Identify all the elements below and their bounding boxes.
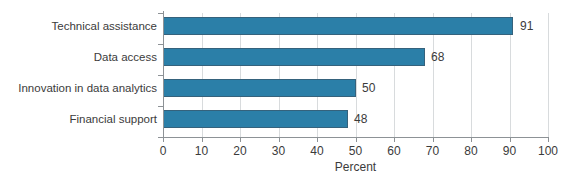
x-tick-label-10: 10	[182, 144, 222, 158]
x-axis-title: Percent	[163, 160, 548, 174]
x-tick-label-40: 40	[297, 144, 337, 158]
x-tick-label-90: 90	[490, 144, 530, 158]
category-label-data-access: Data access	[0, 50, 157, 64]
x-tick-label-0: 0	[143, 144, 183, 158]
value-label-technical-assistance: 91	[520, 19, 533, 33]
x-tick-50	[356, 137, 357, 142]
bar-innovation-in-data-analytics	[163, 79, 356, 97]
category-label-technical-assistance: Technical assistance	[0, 19, 157, 33]
bar-chart: Technical assistance Data access Innovat…	[0, 0, 583, 179]
x-tick-0	[163, 137, 164, 142]
x-tick-label-60: 60	[374, 144, 414, 158]
x-tick-30	[279, 137, 280, 142]
category-label-innovation-in-data-analytics: Innovation in data analytics	[0, 81, 157, 95]
value-label-financial-support: 48	[354, 112, 367, 126]
x-tick-label-70: 70	[413, 144, 453, 158]
x-tick-70	[433, 137, 434, 142]
x-tick-60	[394, 137, 395, 142]
bar-data-access	[163, 48, 425, 66]
x-tick-label-80: 80	[451, 144, 491, 158]
x-tick-label-50: 50	[336, 144, 376, 158]
x-tick-20	[240, 137, 241, 142]
y-tick-1	[158, 44, 163, 45]
y-axis-line	[163, 11, 164, 138]
value-label-innovation-in-data-analytics: 50	[362, 81, 375, 95]
gridline-100	[548, 13, 549, 137]
x-tick-100	[548, 137, 549, 142]
x-tick-label-100: 100	[528, 144, 568, 158]
y-tick-0	[158, 13, 163, 14]
x-tick-label-20: 20	[220, 144, 260, 158]
x-tick-80	[471, 137, 472, 142]
value-label-data-access: 68	[431, 50, 444, 64]
bar-technical-assistance	[163, 17, 513, 35]
x-tick-10	[202, 137, 203, 142]
x-tick-label-30: 30	[259, 144, 299, 158]
y-tick-2	[158, 75, 163, 76]
x-tick-90	[510, 137, 511, 142]
bar-financial-support	[163, 110, 348, 128]
x-tick-40	[317, 137, 318, 142]
y-tick-3	[158, 106, 163, 107]
category-label-financial-support: Financial support	[0, 112, 157, 126]
